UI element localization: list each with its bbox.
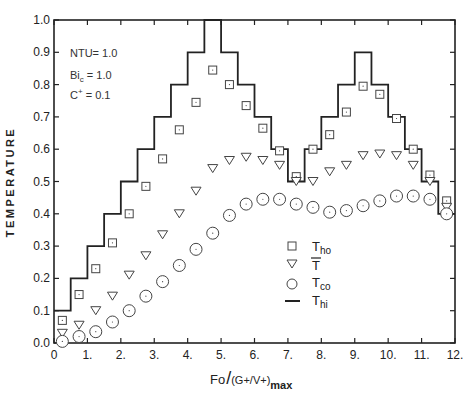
tbar-triangle-marker (124, 271, 134, 279)
y-tick-label: 0.1 (33, 304, 50, 318)
legend-item-tbar: T (287, 258, 321, 273)
y-tick-label: 0.9 (33, 45, 50, 59)
tbar-triangle-marker (408, 161, 418, 169)
x-axis-label: Fo/(G+/V+)max (210, 368, 293, 391)
x-tick-label: 3. (149, 348, 159, 362)
x-tick-label: 4. (183, 348, 193, 362)
x-tick-label: 11. (414, 348, 430, 362)
x-tick-label: 8. (316, 348, 326, 362)
circle-marker-icon (287, 279, 297, 289)
tbar-triangle-marker (341, 161, 351, 169)
svg-text:Tho: Tho (312, 239, 332, 256)
legend-item-tho: Tho (288, 239, 332, 256)
y-axis-ticks: 0.00.10.20.30.40.50.60.70.80.91.0 (33, 13, 455, 350)
svg-text:Thi: Thi (312, 293, 328, 310)
x-tick-label: 7. (283, 348, 293, 362)
triangle-marker-icon (287, 260, 297, 268)
y-axis-label: TEMPERATURE (4, 127, 16, 237)
annotation-bic: Bic = 1.0 (70, 69, 112, 84)
legend: Tho T Tco Thi (285, 239, 332, 310)
tbar-triangle-marker (241, 153, 251, 161)
y-tick-label: 0.6 (33, 142, 50, 156)
x-tick-label: 9. (350, 348, 360, 362)
x-tick-label: 12. (447, 348, 464, 362)
y-tick-label: 0.2 (33, 271, 50, 285)
tbar-triangle-marker (191, 187, 201, 195)
annotation-block: NTU= 1.0 Bic = 1.0 C+ = 0.1 (70, 47, 117, 101)
x-tick-label: 6. (249, 348, 259, 362)
legend-item-thi: Thi (285, 293, 328, 310)
y-tick-label: 1.0 (33, 13, 50, 27)
tbar-triangle-marker (141, 252, 151, 260)
x-tick-label: 5. (216, 348, 226, 362)
y-tick-label: 0.0 (33, 336, 50, 350)
tbar-triangle-marker (208, 165, 218, 173)
tbar-triangle-marker (308, 178, 318, 186)
y-tick-label: 0.5 (33, 175, 50, 189)
tbar-triangle-marker (375, 150, 385, 158)
tbar-triangle-marker (74, 321, 84, 329)
y-tick-label: 0.7 (33, 110, 50, 124)
svg-text:T: T (312, 258, 320, 273)
annotation-cplus: C+ = 0.1 (70, 87, 110, 101)
x-tick-label: 1. (82, 348, 92, 362)
tbar-triangle-marker (258, 157, 268, 165)
chart-svg: 0.00.10.20.30.40.50.60.70.80.91.0 01.2.3… (0, 0, 472, 406)
x-tick-label: 2. (116, 348, 126, 362)
x-tick-label: 10. (380, 348, 397, 362)
tbar-triangle-marker (158, 231, 168, 239)
tbar-triangle-marker (224, 157, 234, 165)
y-tick-label: 0.8 (33, 78, 50, 92)
tbar-triangle-marker (91, 307, 101, 315)
y-tick-label: 0.4 (33, 207, 50, 221)
tbar-triangle-marker (174, 210, 184, 218)
y-tick-label: 0.3 (33, 239, 50, 253)
tbar-triangle-marker (275, 161, 285, 169)
series-thi-step-line (54, 20, 455, 311)
legend-item-tco: Tco (287, 275, 331, 292)
svg-text:Fo/(G+/V+)max: Fo/(G+/V+)max (210, 368, 293, 391)
x-axis-ticks: 01.2.3.4.5.6.7.8.9.10.11.12. (51, 20, 464, 362)
svg-text:Tco: Tco (312, 275, 331, 292)
tbar-triangle-marker (325, 168, 335, 176)
square-marker-icon (288, 242, 296, 250)
svg-text:TEMPERATURE: TEMPERATURE (4, 127, 16, 237)
tbar-triangle-marker (358, 152, 368, 160)
x-tick-label: 0 (51, 348, 58, 362)
tbar-triangle-marker (392, 152, 402, 160)
tbar-triangle-marker (107, 292, 117, 300)
annotation-ntu: NTU= 1.0 (70, 47, 117, 59)
